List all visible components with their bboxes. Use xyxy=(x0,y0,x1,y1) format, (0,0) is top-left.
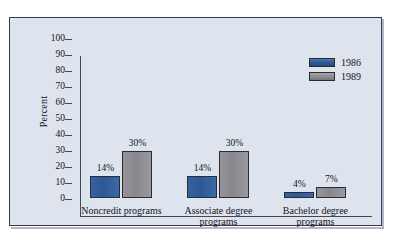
bar-value-label: 30% xyxy=(211,139,257,149)
bar-value-label: 7% xyxy=(308,175,354,185)
y-axis-tick-label: 10 xyxy=(31,178,65,188)
x-axis-category-label: Bachelor degreeprograms xyxy=(255,205,375,228)
y-axis-tick-label: 0 xyxy=(31,194,65,204)
y-axis-tick-label-text: 20 xyxy=(35,162,65,172)
y-axis-tick-label-text: 10 xyxy=(35,178,65,188)
bar-1986-2 xyxy=(187,176,217,198)
y-axis-tick-label: 80 xyxy=(31,66,65,76)
y-axis-tick-label: 100 xyxy=(31,34,65,44)
legend-swatch-1986 xyxy=(309,58,335,67)
y-axis-tick xyxy=(65,167,72,168)
y-axis-tick-label-text: 40 xyxy=(35,130,65,140)
x-axis-category-label-line: programs xyxy=(255,216,375,228)
y-axis-line xyxy=(80,56,81,216)
y-axis-tick-label-text: 90 xyxy=(35,50,65,60)
bar-1989-2 xyxy=(219,151,249,199)
y-axis-tick-label: 90 xyxy=(31,50,65,60)
y-axis-tick xyxy=(65,103,72,104)
y-axis-tick xyxy=(65,55,72,56)
bar-1989-1 xyxy=(122,151,152,199)
y-axis-tick-label-text: 0 xyxy=(35,194,65,204)
y-axis-tick-label: 50 xyxy=(31,114,65,124)
y-axis-tick-label-text: 100 xyxy=(35,34,65,44)
y-axis-tick-label: 70 xyxy=(31,82,65,92)
y-axis-tick xyxy=(65,183,72,184)
legend-label-1986: 1986 xyxy=(341,57,361,68)
legend-item-1989: 1989 xyxy=(309,72,379,82)
chart-legend: 1986 1989 xyxy=(309,58,379,86)
legend-swatch-1989 xyxy=(309,72,335,81)
y-axis-tick xyxy=(65,71,72,72)
y-axis-tick xyxy=(65,87,72,88)
bar-1989-3 xyxy=(316,187,346,198)
y-axis-tick-label-text: 70 xyxy=(35,82,65,92)
y-axis-tick-label-text: 50 xyxy=(35,114,65,124)
y-axis-tick-label: 40 xyxy=(31,130,65,140)
bar-chart-figure: Percent 1009080706050403020100 14%14%4%3… xyxy=(0,0,394,250)
y-axis-tick xyxy=(65,39,72,40)
y-axis-tick xyxy=(65,199,72,200)
y-axis-tick-label-text: 80 xyxy=(35,66,65,76)
bar-1986-3 xyxy=(284,192,314,198)
bar-value-label: 30% xyxy=(114,139,160,149)
y-axis-tick-label-text: 60 xyxy=(35,98,65,108)
y-axis-tick-label: 30 xyxy=(31,146,65,156)
bar-1986-1 xyxy=(90,176,120,198)
y-axis-tick xyxy=(65,135,72,136)
y-axis-tick-label: 20 xyxy=(31,162,65,172)
y-axis-tick-label: 60 xyxy=(31,98,65,108)
legend-label-1989: 1989 xyxy=(341,71,361,82)
chart-panel: Percent 1009080706050403020100 14%14%4%3… xyxy=(9,17,382,226)
y-axis-tick-label-text: 30 xyxy=(35,146,65,156)
panel-shadow-right xyxy=(382,19,384,229)
x-axis-category-label-line: Bachelor degree xyxy=(255,205,375,217)
legend-item-1986: 1986 xyxy=(309,58,379,68)
y-axis-tick xyxy=(65,119,72,120)
y-axis-tick xyxy=(65,151,72,152)
